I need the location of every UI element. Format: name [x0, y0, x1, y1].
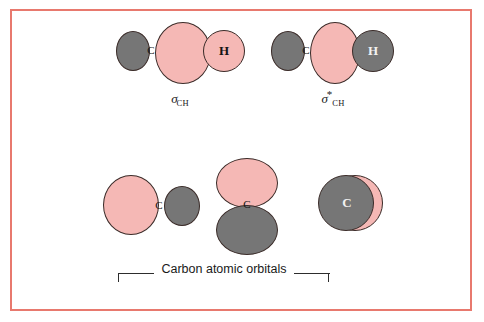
sigma-antibonding-carbon-label: C — [299, 45, 313, 56]
sigma-antibonding-caption: σ*CH — [283, 88, 383, 108]
sigma-bonding-caption: σCH — [130, 88, 230, 108]
sigma-bonding-subscript: CH — [177, 98, 189, 108]
p-vertical-negative-lobe — [216, 205, 278, 255]
p-perpendicular-carbon-label: C — [339, 196, 355, 209]
sigma-antibonding-hydrogen-label: H — [362, 44, 384, 57]
carbon-atomic-orbitals-bracket: Carbon atomic orbitals — [118, 262, 330, 284]
p-horizontal-carbon-label: C — [152, 200, 166, 211]
sigma-bonding-carbon-label: C — [144, 45, 158, 56]
bracket-label: Carbon atomic orbitals — [118, 262, 330, 276]
p-horizontal-negative-lobe — [164, 186, 200, 226]
sigma-bonding-hydrogen-label: H — [213, 44, 235, 57]
sigma-antibonding-subscript: CH — [332, 98, 344, 108]
p-vertical-carbon-label: C — [240, 199, 254, 210]
p-horizontal-positive-lobe — [103, 175, 159, 235]
orbital-diagram-figure: C H σCH C H σ*CH C C C Ca — [0, 0, 484, 322]
